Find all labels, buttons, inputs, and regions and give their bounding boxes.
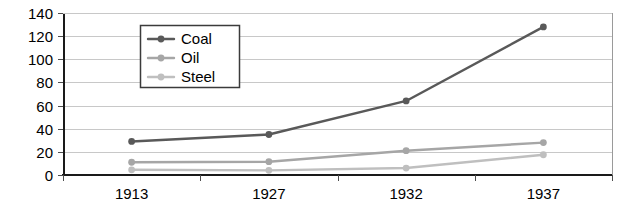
x-tick-label: 1937	[527, 185, 560, 202]
legend-label: Coal	[181, 30, 212, 47]
data-point-marker	[540, 151, 547, 158]
x-axis-tick-labels: 1913192719321937	[115, 185, 560, 202]
legend-label: Steel	[181, 68, 215, 85]
y-axis-tick-marks	[58, 14, 63, 176]
data-point-marker	[128, 166, 135, 173]
data-point-marker	[540, 139, 547, 146]
data-point-marker	[265, 158, 272, 165]
legend-swatch-marker	[158, 36, 165, 43]
y-tick-label: 0	[45, 167, 53, 184]
x-tick-label: 1927	[252, 185, 285, 202]
y-tick-label: 120	[28, 28, 53, 45]
legend-label: Oil	[181, 49, 199, 66]
legend-swatch-marker	[158, 55, 165, 62]
data-point-marker	[403, 165, 410, 172]
data-point-marker	[128, 138, 135, 145]
y-axis-tick-labels: 020406080100120140	[28, 5, 53, 184]
data-point-marker	[403, 98, 410, 105]
line-chart: 020406080100120140 1913192719321937 Coal…	[0, 0, 639, 213]
chart-legend: CoalOilSteel	[141, 26, 240, 88]
y-tick-label: 60	[36, 98, 53, 115]
y-tick-label: 140	[28, 5, 53, 22]
legend-swatch-marker	[158, 74, 165, 81]
x-tick-label: 1913	[115, 185, 148, 202]
data-point-marker	[265, 131, 272, 138]
chart-canvas: 020406080100120140 1913192719321937 Coal…	[0, 0, 639, 213]
y-tick-label: 100	[28, 51, 53, 68]
y-tick-label: 80	[36, 74, 53, 91]
y-tick-label: 40	[36, 121, 53, 138]
data-point-marker	[128, 159, 135, 166]
y-tick-label: 20	[36, 144, 53, 161]
x-tick-label: 1932	[389, 185, 422, 202]
data-point-marker	[403, 147, 410, 154]
data-point-marker	[265, 167, 272, 174]
data-point-marker	[540, 23, 547, 30]
